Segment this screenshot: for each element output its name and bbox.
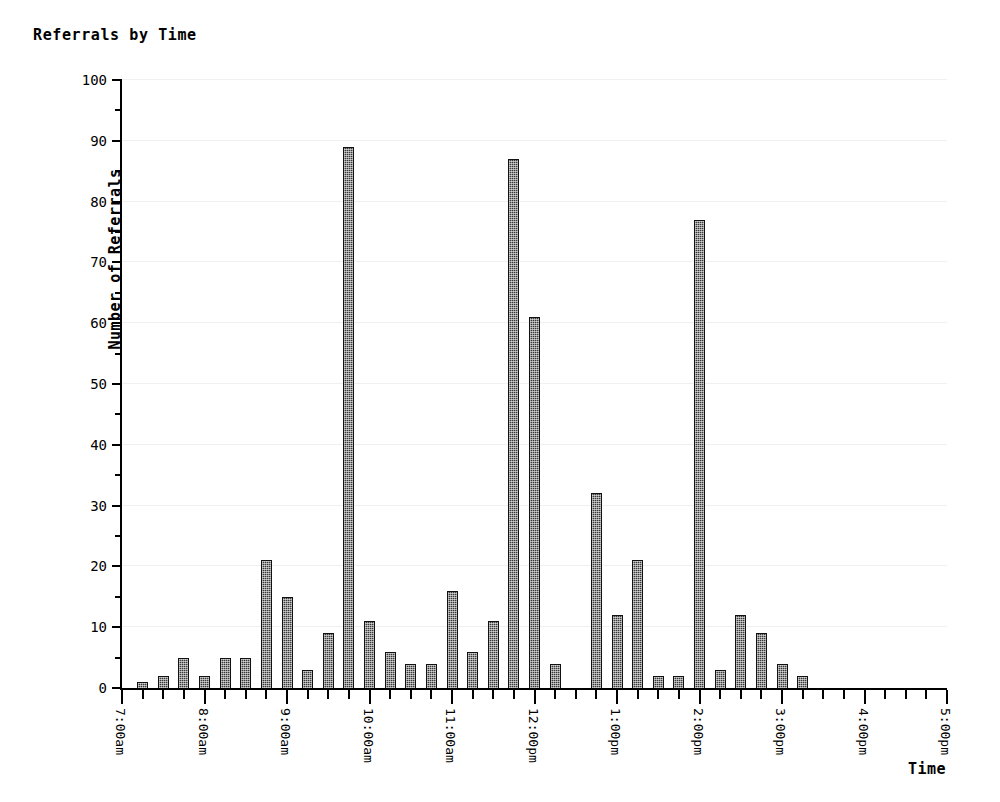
x-tick-minor (740, 690, 742, 699)
y-tick-major (112, 383, 121, 385)
x-tick-minor (678, 690, 680, 699)
x-tick-label: 2:00pm (691, 708, 705, 722)
bar (694, 220, 705, 688)
y-tick-label: 10 (67, 620, 107, 634)
bar (715, 670, 726, 688)
bar (323, 633, 334, 688)
x-tick-minor (657, 690, 659, 699)
gridline (122, 201, 947, 202)
bar (632, 560, 643, 688)
y-tick-major (112, 505, 121, 507)
x-tick-minor (760, 690, 762, 699)
bar (385, 652, 396, 688)
bar (797, 676, 808, 688)
x-tick-label: 7:00am (113, 708, 127, 722)
x-axis-label: Time (908, 760, 946, 778)
x-tick-major (204, 690, 206, 704)
x-tick-label: 11:00am (443, 708, 457, 722)
bar (653, 676, 664, 688)
x-tick-minor (513, 690, 515, 699)
y-tick-minor (115, 596, 121, 598)
y-tick-major (112, 79, 121, 81)
bar (529, 317, 540, 688)
chart-title: Referrals by Time (33, 26, 197, 44)
x-tick-major (286, 690, 288, 704)
y-tick-minor (115, 353, 121, 355)
y-tick-label-wrap: 80 (62, 195, 107, 209)
bar (261, 560, 272, 688)
x-tick-minor (245, 690, 247, 699)
x-tick-minor (575, 690, 577, 699)
bar (178, 658, 189, 688)
y-tick-label-wrap: 40 (62, 438, 107, 452)
x-tick-major (369, 690, 371, 704)
y-tick-minor (115, 109, 121, 111)
bar (220, 658, 231, 688)
y-tick-major (112, 444, 121, 446)
y-tick-label: 80 (67, 195, 107, 209)
y-tick-label: 0 (67, 681, 107, 695)
x-tick-minor (822, 690, 824, 699)
bar (426, 664, 437, 688)
bar (364, 621, 375, 688)
y-tick-label: 20 (67, 559, 107, 573)
bar (735, 615, 746, 688)
x-tick-label: 3:00pm (773, 708, 787, 722)
x-tick-minor (637, 690, 639, 699)
x-tick-label: 8:00am (196, 708, 210, 722)
bar (591, 493, 602, 688)
bar (302, 670, 313, 688)
gridline (122, 79, 947, 80)
y-axis-label: Number of Referrals (106, 168, 124, 349)
bar (447, 591, 458, 688)
x-tick-minor (327, 690, 329, 699)
bar (673, 676, 684, 688)
x-tick-minor (142, 690, 144, 699)
x-tick-minor (595, 690, 597, 699)
y-tick-label-wrap: 70 (62, 255, 107, 269)
y-tick-label-wrap: 20 (62, 559, 107, 573)
x-tick-minor (905, 690, 907, 699)
x-tick-minor (183, 690, 185, 699)
y-tick-label: 90 (67, 134, 107, 148)
x-tick-minor (554, 690, 556, 699)
y-tick-minor (115, 413, 121, 415)
bar (199, 676, 210, 688)
bar (405, 664, 416, 688)
x-tick-major (699, 690, 701, 704)
x-tick-label: 10:00am (361, 708, 375, 722)
x-tick-minor (389, 690, 391, 699)
y-tick-label-wrap: 50 (62, 377, 107, 391)
y-tick-label-wrap: 10 (62, 620, 107, 634)
bar (240, 658, 251, 688)
y-tick-label: 70 (67, 255, 107, 269)
x-tick-minor (162, 690, 164, 699)
x-tick-major (781, 690, 783, 704)
x-tick-label: 5:00pm (938, 708, 952, 722)
x-tick-minor (472, 690, 474, 699)
y-tick-minor (115, 535, 121, 537)
y-tick-major (112, 626, 121, 628)
y-tick-major (112, 140, 121, 142)
bar (467, 652, 478, 688)
y-tick-minor (115, 657, 121, 659)
bar (282, 597, 293, 688)
x-tick-label: 1:00pm (608, 708, 622, 722)
bar (488, 621, 499, 688)
y-tick-label-wrap: 100 (62, 73, 107, 87)
y-tick-label-wrap: 90 (62, 134, 107, 148)
chart-figure: Referrals by Time 0102030405060708090100… (0, 0, 1000, 802)
x-tick-minor (410, 690, 412, 699)
x-tick-major (616, 690, 618, 704)
y-tick-label-wrap: 60 (62, 316, 107, 330)
bar (550, 664, 561, 688)
y-tick-label: 100 (67, 73, 107, 87)
y-tick-label: 60 (67, 316, 107, 330)
x-tick-label: 12:00pm (526, 708, 540, 722)
x-tick-major (121, 690, 123, 704)
x-tick-minor (719, 690, 721, 699)
x-tick-label: 9:00am (278, 708, 292, 722)
x-tick-minor (884, 690, 886, 699)
x-tick-minor (925, 690, 927, 699)
x-tick-major (864, 690, 866, 704)
